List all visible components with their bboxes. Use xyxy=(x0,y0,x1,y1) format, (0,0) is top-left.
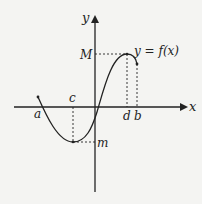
endpoint-a xyxy=(37,96,40,99)
endpoint-b xyxy=(136,63,139,66)
min-point xyxy=(72,141,75,144)
max-value-label: M xyxy=(79,48,93,62)
x-axis-label: x xyxy=(189,99,197,114)
min-value-label: m xyxy=(97,136,108,150)
function-graph: y x y = f(x) M m a c d b xyxy=(0,0,202,204)
tick-label-b: b xyxy=(134,109,142,123)
tick-label-a: a xyxy=(34,107,41,121)
y-axis-label: y xyxy=(81,10,90,25)
function-curve xyxy=(38,54,137,142)
max-point xyxy=(126,53,129,56)
tick-label-d: d xyxy=(123,109,131,123)
curve-label: y = f(x) xyxy=(133,44,179,58)
tick-label-c: c xyxy=(69,91,76,105)
